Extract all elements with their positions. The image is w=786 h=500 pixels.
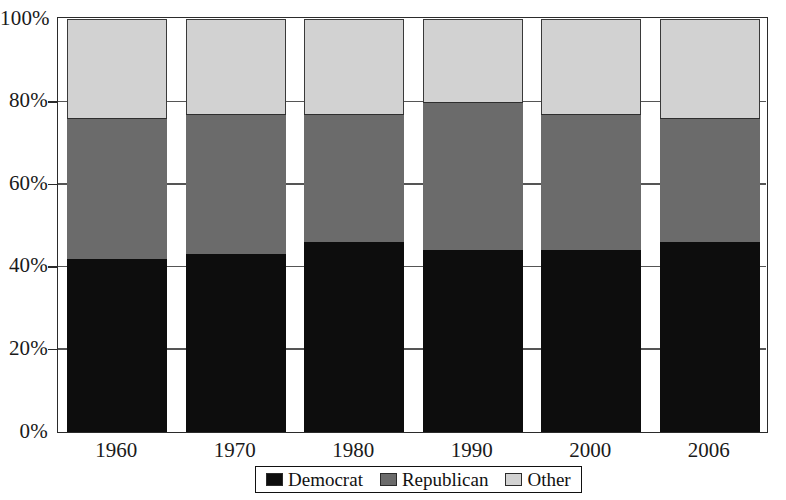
gridline-dash bbox=[167, 101, 185, 103]
gridline-dash bbox=[167, 183, 185, 185]
bar-segment-democrat[interactable] bbox=[660, 242, 760, 432]
gridline-dash bbox=[523, 266, 541, 268]
gridline-dash bbox=[523, 101, 541, 103]
bar-segment-democrat[interactable] bbox=[423, 250, 523, 432]
gridline-dash bbox=[760, 101, 766, 103]
gridline-dash bbox=[641, 183, 659, 185]
y-axis-tick-label: 80% bbox=[0, 88, 48, 113]
gridline-dash bbox=[523, 183, 541, 185]
gridline-dash bbox=[641, 266, 659, 268]
y-axis-tick-label: 20% bbox=[0, 336, 48, 361]
gridline-dash bbox=[58, 348, 67, 350]
gridline-dash bbox=[404, 101, 422, 103]
bar-1990[interactable] bbox=[423, 19, 523, 432]
legend-swatch-icon bbox=[505, 473, 522, 486]
bar-segment-other[interactable] bbox=[304, 19, 404, 114]
bar-segment-democrat[interactable] bbox=[67, 259, 167, 432]
gridline-dash bbox=[760, 183, 766, 185]
bar-segment-republican[interactable] bbox=[423, 102, 523, 251]
bar-2000[interactable] bbox=[541, 19, 641, 432]
bar-segment-other[interactable] bbox=[541, 19, 641, 114]
y-axis-tick-mark bbox=[48, 184, 57, 186]
gridline-dash bbox=[58, 266, 67, 268]
chart-legend: DemocratRepublicanOther bbox=[255, 466, 582, 493]
gridline-dash bbox=[641, 348, 659, 350]
x-axis-tick-label: 1990 bbox=[422, 438, 522, 463]
x-axis-tick-label: 1970 bbox=[185, 438, 285, 463]
bar-2006[interactable] bbox=[660, 19, 760, 432]
gridline-dash bbox=[404, 348, 422, 350]
bar-segment-republican[interactable] bbox=[186, 114, 286, 254]
bar-segment-republican[interactable] bbox=[541, 114, 641, 250]
gridline-dash bbox=[286, 348, 304, 350]
gridline-dash bbox=[286, 101, 304, 103]
gridline-dash bbox=[760, 266, 766, 268]
x-axis-tick-label: 1980 bbox=[303, 438, 403, 463]
y-axis-tick-label: 60% bbox=[0, 171, 48, 196]
y-axis-tick-label: 40% bbox=[0, 253, 48, 278]
gridline-dash bbox=[404, 266, 422, 268]
bar-1960[interactable] bbox=[67, 19, 167, 432]
x-axis-tick-label: 2000 bbox=[540, 438, 640, 463]
gridline-dash bbox=[404, 183, 422, 185]
bar-1980[interactable] bbox=[304, 19, 404, 432]
plot-area bbox=[57, 17, 768, 433]
bar-segment-other[interactable] bbox=[423, 19, 523, 102]
y-axis-tick-mark bbox=[48, 349, 57, 351]
legend-swatch-icon bbox=[380, 473, 397, 486]
legend-swatch-icon bbox=[266, 473, 283, 486]
stacked-bar-chart: 100%80%60%40%20%0% 196019701980199020002… bbox=[0, 0, 786, 500]
bar-1970[interactable] bbox=[186, 19, 286, 432]
legend-label: Democrat bbox=[288, 470, 363, 489]
gridline-dash bbox=[167, 348, 185, 350]
gridline-dash bbox=[760, 348, 766, 350]
legend-entry-republican[interactable]: Republican bbox=[380, 470, 489, 489]
y-axis-tick-label: 100% bbox=[0, 6, 48, 31]
bar-segment-other[interactable] bbox=[660, 19, 760, 118]
bar-segment-democrat[interactable] bbox=[304, 242, 404, 432]
legend-label: Republican bbox=[402, 470, 489, 489]
gridline-dash bbox=[286, 183, 304, 185]
x-axis-tick-label: 2006 bbox=[659, 438, 759, 463]
gridline-dash bbox=[641, 101, 659, 103]
y-axis-tick-mark bbox=[48, 101, 57, 103]
bar-segment-republican[interactable] bbox=[67, 118, 167, 258]
bar-segment-democrat[interactable] bbox=[186, 254, 286, 432]
bar-segment-other[interactable] bbox=[67, 19, 167, 118]
legend-entry-other[interactable]: Other bbox=[505, 470, 570, 489]
bar-segment-republican[interactable] bbox=[304, 114, 404, 242]
gridline-dash bbox=[286, 266, 304, 268]
bar-segment-democrat[interactable] bbox=[541, 250, 641, 432]
gridline-dash bbox=[58, 183, 67, 185]
legend-entry-democrat[interactable]: Democrat bbox=[266, 470, 363, 489]
x-axis-tick-label: 1960 bbox=[66, 438, 166, 463]
gridline-dash bbox=[167, 266, 185, 268]
y-axis-tick-mark bbox=[48, 266, 57, 268]
legend-label: Other bbox=[527, 470, 570, 489]
gridline-dash bbox=[523, 348, 541, 350]
y-axis-tick-label: 0% bbox=[0, 419, 48, 444]
gridline-dash bbox=[58, 101, 67, 103]
bar-segment-republican[interactable] bbox=[660, 118, 760, 242]
bar-segment-other[interactable] bbox=[186, 19, 286, 114]
